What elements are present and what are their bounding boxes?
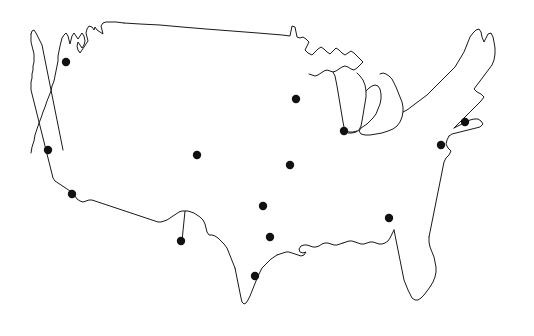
city-marker [461,118,469,126]
city-marker [266,233,274,241]
us-outline-map-figure [0,0,534,336]
city-marker [251,272,259,280]
city-marker [292,95,300,103]
city-marker [437,141,445,149]
city-marker [385,214,393,222]
city-marker [259,202,267,210]
map-canvas [0,0,534,336]
city-marker [68,190,76,198]
city-marker [44,146,52,154]
city-marker [62,58,70,66]
city-marker [340,127,348,135]
city-marker [286,161,294,169]
city-marker [177,237,185,245]
city-marker [193,151,201,159]
map-background [0,0,534,336]
